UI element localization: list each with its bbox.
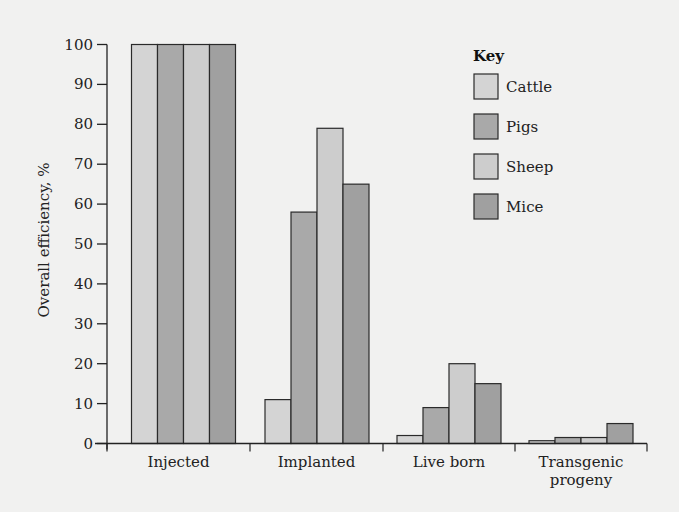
bar-pigs [423, 408, 449, 444]
bar-mice [210, 45, 236, 444]
legend-swatch [474, 74, 498, 99]
bar-sheep [581, 438, 607, 444]
legend-label: Sheep [506, 158, 553, 176]
bar-cattle [265, 400, 291, 444]
legend-item-cattle: Cattle [474, 74, 552, 99]
bar-cattle [397, 436, 423, 444]
y-tick-label: 100 [64, 36, 93, 54]
bar-mice [607, 424, 633, 444]
y-tick-label: 30 [74, 315, 93, 333]
bar-group [265, 128, 369, 443]
legend-swatch [474, 154, 498, 179]
bars [132, 45, 634, 444]
y-axis-title: Overall efficiency, % [35, 163, 53, 318]
legend-label: Cattle [506, 78, 552, 96]
y-tick-label: 90 [74, 75, 93, 93]
bar-mice [343, 184, 369, 443]
y-tick-label: 20 [74, 355, 93, 373]
x-category-label: Injected [147, 453, 209, 471]
x-category-label: Live born [413, 453, 486, 471]
x-category-label: Transgenicprogeny [539, 453, 624, 489]
legend-item-pigs: Pigs [474, 114, 538, 139]
y-tick-label: 0 [83, 435, 93, 453]
legend-label: Pigs [506, 118, 538, 136]
bar-group [529, 424, 633, 444]
legend: Key CattlePigsSheepMice [473, 47, 553, 219]
bar-sheep [449, 364, 475, 444]
y-axis: 0102030405060708090100 [64, 36, 107, 453]
bar-sheep [317, 128, 343, 443]
legend-item-sheep: Sheep [474, 154, 553, 179]
y-tick-label: 60 [74, 195, 93, 213]
legend-swatch [474, 194, 498, 219]
x-axis: InjectedImplantedLive bornTransgenicprog… [95, 444, 647, 489]
y-tick-label: 40 [74, 275, 93, 293]
bar-mice [475, 384, 501, 444]
bar-cattle [132, 45, 158, 444]
y-tick-label: 70 [74, 155, 93, 173]
y-tick-label: 80 [74, 115, 93, 133]
legend-item-mice: Mice [474, 194, 544, 219]
x-category-label: Implanted [278, 453, 356, 471]
legend-swatch [474, 114, 498, 139]
bar-group [397, 364, 501, 444]
y-tick-label: 10 [74, 395, 93, 413]
legend-label: Mice [506, 198, 544, 216]
legend-title: Key [473, 47, 505, 65]
y-tick-label: 50 [74, 235, 93, 253]
bar-sheep [184, 45, 210, 444]
bar-pigs [555, 438, 581, 444]
bar-pigs [291, 212, 317, 443]
bar-pigs [158, 45, 184, 444]
bar-chart: 0102030405060708090100 Overall efficienc… [0, 0, 679, 512]
bar-group [132, 45, 236, 444]
